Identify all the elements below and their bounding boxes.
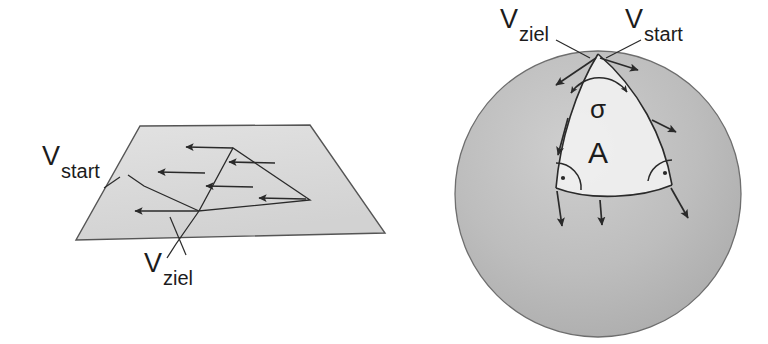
figure-container: V start V ziel [0,0,768,344]
sigma-label: σ [590,94,606,124]
sphere-v-start-sub: start [644,23,683,45]
plane-vector-3 [158,172,205,173]
right-angle-dot-right [663,171,667,175]
sphere-v-start-main: V [625,4,643,34]
area-label: A [588,136,608,169]
plane-v-ziel-main: V [144,248,162,278]
plane-v-ziel-sub: ziel [163,267,193,289]
plane-v-start-main: V [42,141,60,171]
plane-vector-4 [259,198,306,199]
plane-panel: V start V ziel [42,125,385,289]
sphere-panel: V ziel V start σ A [455,4,741,337]
plane-v-start-label: V start [42,141,100,182]
sphere-v-ziel-main: V [500,4,518,34]
plane-vector-2 [229,162,275,163]
physics-diagram: V start V ziel [0,0,768,344]
right-angle-dot-left [561,176,565,180]
plane-surface [76,125,385,240]
plane-v-start-sub: start [61,160,100,182]
sphere-v-ziel-label: V ziel [500,4,549,45]
sphere-v-start-label: V start [625,4,683,45]
plane-vector-5 [206,186,253,187]
plane-vector-1 [186,147,233,148]
sphere-v-ziel-sub: ziel [519,23,549,45]
